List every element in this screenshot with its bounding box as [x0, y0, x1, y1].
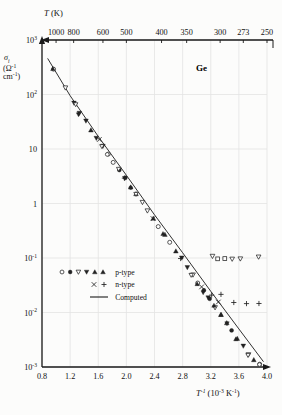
data-marker: [129, 186, 133, 190]
legend-marker: [60, 270, 64, 274]
top-tick-label: 1000: [48, 28, 64, 37]
top-tick-label: 600: [97, 28, 109, 37]
top-tick-label: 300: [214, 28, 226, 37]
y-tick-label: 103: [26, 35, 37, 45]
data-marker: [105, 153, 109, 157]
x-tick-label: 2.8: [178, 372, 188, 381]
legend-marker: [68, 270, 72, 274]
data-marker: [216, 257, 220, 261]
data-marker: [256, 255, 261, 259]
axes: [39, 36, 273, 370]
data-marker: [223, 257, 227, 261]
data-marker: [201, 291, 205, 295]
x-tick-label: 3.2: [206, 372, 216, 381]
data-marker: [241, 344, 246, 348]
material-label: Ge: [196, 63, 207, 73]
y-tick-label: 1: [33, 200, 37, 209]
top-tick-label: 400: [155, 28, 167, 37]
data-marker: [230, 328, 234, 332]
x-tick-label: 2.0: [121, 372, 131, 381]
top-tick-label: 500: [120, 28, 132, 37]
series-n-type-outliers: [218, 292, 261, 306]
data-marker: [185, 266, 190, 270]
data-marker: [63, 86, 68, 90]
y-tick-label: 102: [26, 89, 37, 99]
data-marker: [168, 240, 172, 244]
x-axis-title: T-1 (10-3 K-1): [196, 388, 240, 398]
x-tick-label: 4.0: [262, 372, 272, 381]
x-tick-label: 1.6: [93, 372, 103, 381]
legend-marker: [76, 270, 81, 274]
legend-marker: [92, 282, 97, 287]
x-tick-label: 1.2: [65, 372, 75, 381]
legend-label-n-type: n-type: [115, 280, 135, 289]
top-axis-title: T (K): [44, 8, 63, 18]
y-tick-label: 10: [29, 145, 37, 154]
data-marker: [244, 301, 249, 306]
data-marker: [231, 300, 236, 305]
y-tick-label: 10-2: [24, 307, 37, 317]
legend-marker: [101, 270, 106, 274]
legend-marker: [84, 270, 89, 274]
data-marker: [212, 303, 216, 307]
top-tick-label: 273: [237, 28, 249, 37]
data-marker: [140, 200, 145, 204]
y-axis-symbol: σi: [4, 53, 10, 64]
computed-curve: [48, 58, 264, 361]
data-marker: [251, 357, 256, 361]
legend-marker: [93, 270, 98, 274]
x-tick-label: 3.6: [234, 372, 244, 381]
x-tick-label: 2.4: [149, 372, 159, 381]
data-marker: [156, 225, 160, 229]
top-tick-label: 350: [181, 28, 193, 37]
data-marker: [199, 285, 204, 290]
chart-legend: p-typen-typeComputed: [60, 268, 147, 302]
data-marker: [174, 249, 179, 253]
data-marker: [218, 292, 223, 297]
data-marker: [76, 113, 80, 117]
data-marker: [230, 257, 235, 261]
y-tick-label: 10-1: [24, 253, 37, 263]
data-points: [48, 58, 264, 366]
legend-label-computed: Computed: [115, 293, 147, 302]
data-marker: [111, 160, 115, 164]
x-tick-label: 0.8: [37, 372, 47, 381]
conductivity-chart: 0.81.21.62.02.42.83.23.64.010310210110-1…: [0, 0, 282, 415]
grid-lines: [42, 40, 267, 367]
top-tick-label: 800: [68, 28, 80, 37]
data-marker: [256, 301, 261, 306]
data-marker: [145, 209, 150, 213]
data-marker: [258, 363, 262, 367]
y-axis-units: (Ω-1cm-1): [3, 63, 20, 81]
legend-label-p-type: p-type: [115, 268, 135, 277]
top-tick-label: 250: [261, 28, 273, 37]
legend-marker: [101, 282, 106, 287]
y-tick-label: 10-3: [24, 362, 37, 372]
data-marker: [216, 300, 221, 305]
